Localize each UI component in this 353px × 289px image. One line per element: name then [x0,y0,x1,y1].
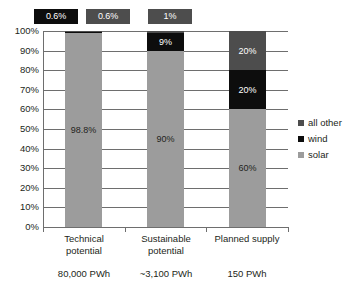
bar-segment: 20% [229,70,266,109]
bar-segment-label: 90% [147,134,184,144]
bar-segment: 60% [229,109,266,227]
legend: all otherwindsolar [298,116,342,164]
x-axis-category-label: Technicalpotential [43,233,125,256]
callout-label: 0.6% [86,9,130,24]
y-axis-tick-label: 90% [1,46,39,56]
x-axis-category-label: Planned supply [206,233,288,245]
y-axis-tick-label: 0% [1,222,39,232]
bar-segment-label: 9% [147,37,184,47]
category-label-line: Technical [43,233,125,245]
bar: 98.8% [65,31,102,227]
x-axis-tick-mark [43,227,44,232]
y-axis-tick-label: 60% [1,104,39,114]
legend-swatch-icon [298,120,304,126]
bar-segment: 9% [147,33,184,51]
plot-area: 100%90%80%70%60%50%40%30%20%10%0% 98.8%9… [43,31,288,227]
y-axis-tick-label: 10% [1,202,39,212]
category-label-line: Planned supply [206,233,288,245]
legend-item[interactable]: all other [298,116,342,130]
bar-segment: 90% [147,51,184,227]
legend-swatch-icon [298,152,304,158]
y-axis-tick-label: 50% [1,124,39,134]
bar-segment [65,32,102,33]
callout-label: 1% [148,9,192,24]
bar-segment: 20% [229,31,266,70]
legend-item-label: solar [308,150,329,160]
x-axis-value-label: 150 PWh [206,268,288,279]
x-axis-line [43,227,289,228]
legend-item[interactable]: solar [298,148,342,162]
bar: 60%20%20% [229,31,266,227]
legend-item-label: wind [308,134,328,144]
x-axis-value-label: ~3,100 PWh [125,268,207,279]
x-axis-tick-mark [125,227,126,232]
y-axis-tick-label: 30% [1,163,39,173]
y-axis-tick-label: 100% [1,26,39,36]
category-label-line: potential [43,245,125,257]
category-label-line: Sustainable [125,233,207,245]
legend-item-label: all other [308,118,342,128]
x-axis-tick-mark [288,227,289,232]
legend-item[interactable]: wind [298,132,342,146]
bar-segment-label: 20% [229,46,266,56]
category-label-line: potential [125,245,207,257]
bar-segment-label: 20% [229,85,266,95]
bar-segment-label: 60% [229,163,266,173]
callout-label-row: 0.6%0.6%1% [0,9,353,26]
bar-segment [147,31,184,33]
y-axis-tick-label: 80% [1,65,39,75]
legend-swatch-icon [298,136,304,142]
bar-segment: 98.8% [65,33,102,227]
bar-segment [65,31,102,32]
x-axis-value-label: 80,000 PWh [43,268,125,279]
callout-label: 0.6% [34,9,78,24]
x-axis-category-label: Sustainablepotential [125,233,207,256]
bar: 90%9% [147,31,184,227]
y-axis-tick-label: 70% [1,85,39,95]
y-axis-tick-label: 40% [1,144,39,154]
bar-segment-label: 98.8% [65,125,102,135]
y-axis-tick-label: 20% [1,183,39,193]
x-axis-tick-mark [206,227,207,232]
